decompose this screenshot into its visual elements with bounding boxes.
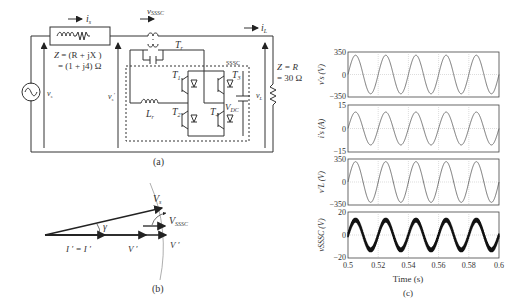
svg-text:V ′: V ′ bbox=[170, 240, 181, 250]
load-resistor-icon bbox=[270, 84, 276, 105]
y-tick: 0 bbox=[342, 71, 346, 80]
caption-a: (a) bbox=[153, 156, 164, 168]
svg-text:Tr: Tr bbox=[175, 39, 184, 51]
plot-2: 150−15i′s (A) bbox=[317, 101, 499, 156]
svg-text:Vs: Vs bbox=[153, 193, 162, 205]
capacitor-icon bbox=[150, 56, 156, 64]
x-tick: 0.54 bbox=[401, 261, 415, 270]
caption-b: (b) bbox=[152, 283, 164, 295]
y-axis-label: v′s (V) bbox=[317, 64, 326, 85]
figure-canvas: is vSSSC iL Z = (R + jX ) = (1 + j4) Ω T… bbox=[0, 0, 523, 308]
svg-text:is: is bbox=[86, 13, 92, 25]
igbt-t4-icon bbox=[218, 111, 233, 129]
y-tick: 0 bbox=[342, 178, 346, 187]
zl-equation: Z = R bbox=[277, 62, 299, 72]
svg-text:T4: T4 bbox=[210, 106, 219, 118]
y-tick: 0 bbox=[342, 231, 346, 240]
vsssc-angle-arc bbox=[152, 213, 166, 225]
y-axis-label: vSSSC (V) bbox=[317, 218, 326, 251]
y-tick: 350 bbox=[334, 155, 346, 164]
svg-text:iL: iL bbox=[261, 22, 268, 34]
zs-equation: Z = (R + jX ) bbox=[54, 50, 101, 60]
y-tick: 0 bbox=[342, 125, 346, 134]
y-tick: 15 bbox=[338, 101, 346, 110]
y-axis-label: i′s (A) bbox=[317, 119, 326, 139]
x-tick: 0.52 bbox=[371, 261, 385, 270]
igbt-t2-icon bbox=[182, 111, 197, 129]
zl-value: = 30 Ω bbox=[277, 73, 303, 83]
y-tick: 20 bbox=[338, 208, 346, 217]
x-tick: 0.58 bbox=[462, 261, 476, 270]
svg-text:I ′ = I ′: I ′ = I ′ bbox=[65, 244, 92, 254]
y-tick: 350 bbox=[334, 48, 346, 57]
y-axis-label: v′L (V) bbox=[317, 171, 326, 193]
circuit-diagram bbox=[22, 19, 276, 152]
igbt-t1-icon bbox=[182, 76, 197, 94]
resistor-icon bbox=[74, 32, 90, 40]
svg-text:T1: T1 bbox=[172, 69, 181, 81]
x-axis-label: Time (s) bbox=[393, 274, 423, 284]
inductor-icon bbox=[57, 32, 74, 36]
inductor-lr-icon bbox=[141, 99, 158, 103]
x-tick: 0.6 bbox=[494, 261, 504, 270]
svg-text:T3: T3 bbox=[232, 69, 241, 81]
igbt-t3-icon bbox=[218, 76, 233, 94]
svg-text:T2: T2 bbox=[172, 106, 181, 118]
svg-text:γ: γ bbox=[103, 221, 108, 232]
x-tick: 0.5 bbox=[343, 261, 353, 270]
svg-text:vL: vL bbox=[256, 91, 263, 101]
svg-text:vs: vs bbox=[47, 89, 53, 99]
svg-text:V ′: V ′ bbox=[128, 244, 139, 254]
source-impedance-box bbox=[50, 27, 110, 45]
zs-value: = (1 + j4) Ω bbox=[58, 61, 102, 71]
svg-text:vs′: vs′ bbox=[108, 92, 116, 102]
sssc-label: SSSC bbox=[226, 60, 240, 66]
svg-text:Lr: Lr bbox=[145, 108, 155, 120]
y-tick: −350 bbox=[329, 92, 346, 101]
plot-3: 3500−350v′L (V) bbox=[317, 155, 499, 209]
gamma-arc bbox=[97, 224, 100, 235]
plot-1: 3500−350v′s (V) bbox=[317, 48, 499, 101]
waveform-plots: 3500−350v′s (V)150−15i′s (A)3500−350v′L … bbox=[317, 48, 504, 270]
svg-text:vSSSC: vSSSC bbox=[147, 6, 165, 16]
svg-text:VDC: VDC bbox=[225, 102, 240, 113]
svg-text:VSSSC: VSSSC bbox=[169, 215, 189, 227]
x-tick: 0.56 bbox=[432, 261, 446, 270]
caption-c: (c) bbox=[403, 288, 413, 298]
plot-4: 200−20vSSSC (V)0.50.520.540.560.580.6 bbox=[317, 208, 504, 270]
